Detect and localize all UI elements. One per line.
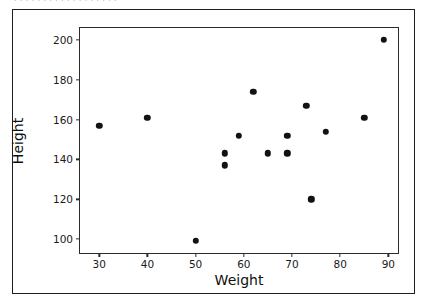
clipped-top-text-line: . . . . . . . . . . . . . . . . . . [0, 0, 427, 3]
y-axis-title-label: Height [10, 117, 26, 163]
x-tick-label: 90 [382, 258, 395, 270]
data-point [323, 128, 329, 134]
x-axis-title: Weight [79, 272, 399, 288]
data-point [96, 122, 102, 128]
data-point [221, 162, 227, 168]
data-point [308, 196, 314, 202]
data-point [284, 150, 290, 156]
x-tick-label: 40 [141, 258, 154, 270]
x-tick-mark [195, 253, 196, 257]
x-tick-label: 70 [285, 258, 298, 270]
data-point [380, 37, 386, 43]
x-tick-label: 30 [93, 258, 106, 270]
x-tick-label: 80 [333, 258, 346, 270]
data-point [250, 89, 256, 95]
clipped-top-text: . . . . . . . . . . . . . . . . . . [0, 0, 427, 8]
data-point [192, 238, 198, 244]
y-tick-mark [76, 199, 80, 200]
data-point [144, 114, 150, 120]
data-point [265, 150, 271, 156]
x-tick-mark [291, 253, 292, 257]
data-point [221, 150, 227, 156]
y-tick-label: 160 [53, 114, 73, 126]
x-tick-mark [243, 253, 244, 257]
y-tick-label: 120 [53, 193, 73, 205]
y-tick-label: 140 [53, 153, 73, 165]
data-point [284, 132, 290, 138]
y-tick-mark [76, 79, 80, 80]
x-tick-mark [99, 253, 100, 257]
x-axis-title-label: Weight [215, 272, 264, 288]
x-tick-mark [147, 253, 148, 257]
data-point [236, 132, 242, 138]
y-tick-mark [76, 39, 80, 40]
x-tick-mark [340, 253, 341, 257]
data-point [303, 102, 309, 108]
y-tick-mark [76, 159, 80, 160]
data-point [361, 114, 367, 120]
x-tick-mark [388, 253, 389, 257]
figure-frame: Height 30405060708090 100120140160180200… [12, 9, 415, 294]
y-tick-mark [76, 119, 80, 120]
x-tick-label: 60 [237, 258, 250, 270]
x-tick-label: 50 [189, 258, 202, 270]
scatter-plot-area: 30405060708090 100120140160180200 [79, 27, 399, 254]
y-tick-label: 180 [53, 74, 73, 86]
y-tick-label: 200 [53, 34, 73, 46]
y-axis-title: Height [11, 27, 25, 254]
y-tick-mark [76, 238, 80, 239]
y-tick-label: 100 [53, 233, 73, 245]
